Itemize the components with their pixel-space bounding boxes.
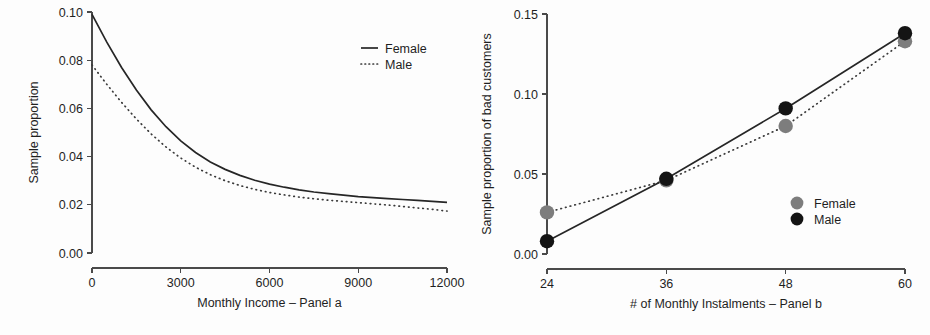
x-tick-label: 3000	[167, 276, 195, 290]
y-tick-label: 0.06	[59, 102, 83, 116]
y-tick-label: 0.10	[514, 88, 538, 102]
panel-a-plot-area: 0.000.020.040.060.080.100300060009000120…	[27, 6, 464, 311]
x-tick-label: 48	[779, 277, 793, 291]
y-tick-label: 0.00	[59, 247, 83, 261]
panel-b-svg: 0.000.050.100.1524364860# of Monthly Ins…	[465, 0, 930, 335]
data-point-female-24	[540, 205, 554, 219]
legend-label-female: Female	[385, 42, 427, 56]
x-tick-label: 6000	[256, 276, 284, 290]
panel-a-y-axis-title: Sample proportion	[27, 81, 41, 183]
data-point-female-48	[778, 119, 792, 133]
y-tick-label: 0.15	[514, 8, 538, 22]
legend-swatch-male	[791, 213, 804, 226]
figure-container: 0.000.020.040.060.080.100300060009000120…	[0, 0, 930, 335]
legend-swatch-female	[791, 197, 804, 210]
legend-label-male: Male	[814, 213, 841, 227]
series-line-male	[92, 65, 447, 211]
x-tick-label: 60	[898, 277, 912, 291]
y-tick-label: 0.10	[59, 6, 83, 20]
data-point-male-48	[778, 101, 792, 115]
panel-a-svg: 0.000.020.040.060.080.100300060009000120…	[0, 0, 465, 335]
data-point-male-24	[540, 234, 554, 248]
y-tick-label: 0.04	[59, 150, 83, 164]
x-tick-label: 36	[659, 277, 673, 291]
x-tick-label: 9000	[344, 276, 372, 290]
y-tick-label: 0.02	[59, 198, 83, 212]
panel-b-y-axis-title: Sample proportion of bad customers	[480, 33, 494, 235]
legend-label-male: Male	[385, 58, 412, 72]
x-tick-label: 24	[540, 277, 554, 291]
y-tick-label: 0.00	[514, 248, 538, 262]
legend-label-female: Female	[814, 197, 856, 211]
data-point-male-36	[659, 172, 673, 186]
panel-a-x-axis-title: Monthly Income – Panel a	[197, 296, 342, 310]
panel-b-x-axis-title: # of Monthly Instalments – Panel b	[630, 297, 822, 311]
chart-panel-b: 0.000.050.100.1524364860# of Monthly Ins…	[465, 0, 930, 335]
y-tick-label: 0.08	[59, 54, 83, 68]
data-point-male-60	[898, 26, 912, 40]
y-tick-label: 0.05	[514, 168, 538, 182]
x-tick-label: 0	[89, 276, 96, 290]
x-tick-label: 12000	[430, 276, 465, 290]
chart-panel-a: 0.000.020.040.060.080.100300060009000120…	[0, 0, 465, 335]
panel-b-plot-area: 0.000.050.100.1524364860# of Monthly Ins…	[480, 8, 912, 312]
